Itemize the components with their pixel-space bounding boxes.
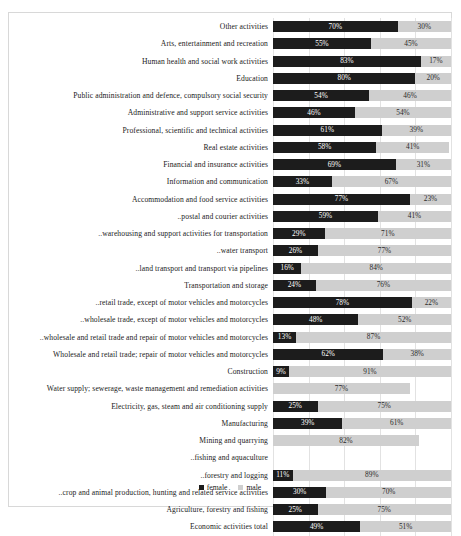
stacked-bar: 55%45% [273,38,451,49]
bar-segment-male: 75% [318,401,452,412]
bar-segment-male: 61% [342,418,451,429]
bar-segment-female: 25% [273,401,318,412]
stacked-bar: 54%46% [273,90,451,101]
bar-track: 11%89% [273,467,451,484]
bar-value-male: 23% [424,195,437,203]
bar-value-female: 80% [337,74,350,82]
bar-value-female: 46% [307,109,320,117]
bar-segment-female: 48% [273,314,358,325]
bar-segment-female: 46% [273,107,355,118]
bar-value-male: 76% [377,281,390,289]
legend-swatch-male-icon [238,485,243,490]
legend-item-male: male [238,483,261,492]
bar-value-male: 61% [390,419,403,427]
stacked-bar: 61%39% [273,125,451,136]
bar-track: 62%38% [273,346,451,363]
bar-value-male: 71% [381,230,394,238]
bar-track: 54%46% [273,87,451,104]
bar-track: 49%51% [273,518,451,535]
bar-value-male: 41% [406,143,419,151]
bar-value-male: 46% [403,92,416,100]
bar-track: 80%20% [273,70,451,87]
bar-segment-male: 89% [293,470,451,481]
bar-segment-male: 41% [378,211,451,222]
bar-segment-female: 58% [273,142,376,153]
bar-segment-male: 54% [355,107,451,118]
bar-track: 25%75% [273,398,451,415]
bar-segment-male: 30% [398,21,451,32]
category-label: ..postal and courier activities [9,212,273,221]
bar-segment-female: 78% [273,297,412,308]
bar-segment-female: 49% [273,521,360,532]
stacked-bar: 69%31% [273,159,451,170]
bar-value-male: 20% [426,74,439,82]
bar-value-male: 84% [370,264,383,272]
chart-row: ..fishing and aquaculture [9,449,451,466]
bar-segment-female: 55% [273,38,371,49]
stacked-bar: 58%41% [273,142,451,153]
bar-segment-female: 70% [273,21,398,32]
category-label: Construction [9,367,273,376]
chart-row: Education80%20% [9,70,451,87]
category-label: Real estate activities [9,143,273,152]
bar-segment-male: 71% [325,228,451,239]
legend-item-female: female [199,483,228,492]
bar-value-male: 67% [385,178,398,186]
bar-value-female: 16% [281,264,294,272]
stacked-bar: 16%84% [273,263,451,274]
chart-row: Wholesale and retail trade; repair of mo… [9,346,451,363]
bar-track: 9%91% [273,363,451,380]
category-label: Agriculture, forestry and fishing [9,505,273,514]
bar-value-female: 58% [318,143,331,151]
bar-value-female: 39% [301,419,314,427]
stacked-bar: 80%20% [273,73,451,84]
bar-track: 83%17% [273,53,451,70]
bar-segment-male: 23% [410,194,451,205]
category-label: Financial and insurance activities [9,160,273,169]
stacked-bar: 39%61% [273,418,451,429]
bar-segment-female: 25% [273,504,318,515]
bar-value-male: 51% [399,523,412,531]
chart-row: Water supply; sewerage, waste management… [9,380,451,397]
chart-row: ..wholesale and retail trade and repair … [9,329,451,346]
bar-segment-male: 22% [412,297,451,308]
bar-value-female: 24% [288,281,301,289]
bar-track: 55%45% [273,35,451,52]
bar-segment-female: 13% [273,332,296,343]
bar-value-male: 39% [410,126,423,134]
bar-rows: Other activities70%30%Arts, entertainmen… [9,18,451,536]
bar-track: 48%52% [273,311,451,328]
bar-track: 26%77% [273,242,451,259]
bar-segment-female: 54% [273,90,369,101]
bar-segment-female: 61% [273,125,382,136]
bar-track: 16%84% [273,260,451,277]
category-label: ..water transport [9,246,273,255]
category-label: Manufacturing [9,419,273,428]
category-label: Professional, scientific and technical a… [9,126,273,135]
stacked-bar: 77%23% [273,194,451,205]
chart-row: Administrative and support service activ… [9,104,451,121]
chart-legend: female male [9,483,451,492]
bar-value-male: 22% [425,299,438,307]
bar-track: 82% [273,432,451,449]
bar-value-female: 48% [309,316,322,324]
category-label: ..warehousing and support activities for… [9,229,273,238]
bar-track: 69%31% [273,156,451,173]
bar-segment-female: 77% [273,194,410,205]
category-label: Economic activities total [9,522,273,531]
bar-segment-female: 24% [273,280,316,291]
bar-segment-male: 84% [301,263,451,274]
bar-segment-male: 67% [332,176,451,187]
category-label: Administrative and support service activ… [9,108,273,117]
category-label: Accommodation and food service activitie… [9,195,273,204]
chart-row: Real estate activities58%41% [9,139,451,156]
chart-row: Agriculture, forestry and fishing25%75% [9,501,451,518]
stacked-bar: 77% [273,383,451,394]
bar-value-female: 13% [278,333,291,341]
bar-value-male: 89% [365,471,378,479]
category-label: Mining and quarrying [9,436,273,445]
bar-value-female: 59% [319,212,332,220]
chart-row: Professional, scientific and technical a… [9,122,451,139]
bar-value-male: 82% [339,437,352,445]
bar-segment-male: 75% [318,504,452,515]
